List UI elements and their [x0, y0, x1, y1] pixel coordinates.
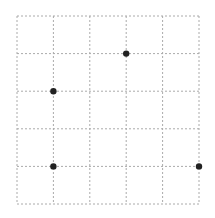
grid-point: [50, 88, 56, 94]
dot-grid-diagram: [0, 0, 215, 218]
grid-lines: [17, 16, 199, 204]
grid-point: [196, 163, 202, 169]
grid-point: [50, 163, 56, 169]
grid-point: [123, 50, 129, 56]
